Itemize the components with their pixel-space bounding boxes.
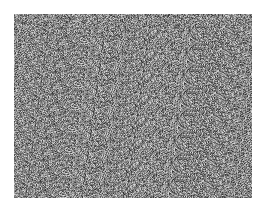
noise-texture [14,14,252,198]
